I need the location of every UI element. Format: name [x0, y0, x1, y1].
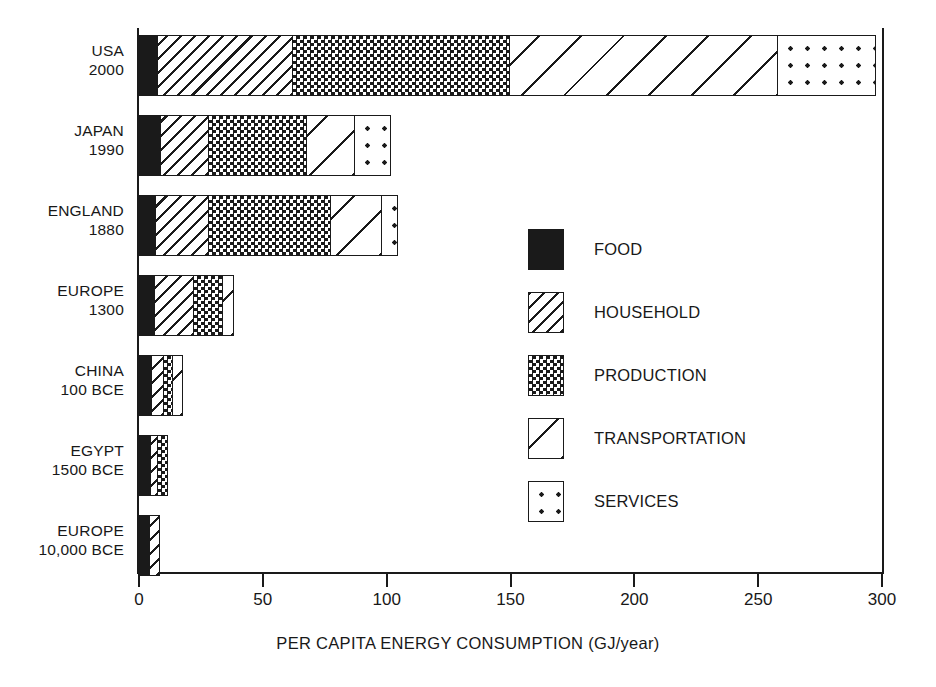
- energy-consumption-chart: USA 2000 JAPAN 1990 ENGLAND 1880 EUROPE …: [0, 0, 936, 687]
- y-axis-category-labels: USA 2000 JAPAN 1990 ENGLAND 1880 EUROPE …: [0, 0, 124, 687]
- x-axis-tick-label: 0: [134, 590, 143, 610]
- legend-item-label: FOOD: [594, 240, 642, 259]
- bar-segment-transportation: [222, 275, 234, 336]
- bar-segment-services: [354, 115, 391, 176]
- x-axis-tick: [510, 574, 512, 587]
- bar-segment-production: [292, 35, 510, 96]
- bar-row: [139, 275, 234, 336]
- x-axis-tick: [881, 574, 883, 587]
- bar-row: [139, 115, 391, 176]
- bar-segment-services: [381, 195, 398, 256]
- bar-segment-household: [154, 275, 195, 336]
- bar-segment-household: [155, 195, 209, 256]
- sparse-hatch-icon: [528, 418, 564, 459]
- legend-item: SERVICES: [528, 481, 746, 522]
- category-label-usa: USA 2000: [12, 41, 124, 79]
- bar-segment-household: [157, 35, 293, 96]
- bar-segment-food: [139, 275, 155, 336]
- chart-legend: FOODHOUSEHOLDPRODUCTIONTRANSPORTATIONSER…: [528, 229, 746, 544]
- bar-segment-production: [208, 195, 332, 256]
- bar-row: [139, 435, 168, 496]
- legend-item: FOOD: [528, 229, 746, 270]
- plot-area: 050100150200250300: [139, 28, 882, 572]
- legend-item-label: SERVICES: [594, 492, 679, 511]
- x-axis-tick-label: 300: [868, 590, 896, 610]
- category-place: ENGLAND: [12, 201, 124, 220]
- legend-item-label: TRANSPORTATION: [594, 429, 746, 448]
- bar-segment-transportation: [172, 355, 183, 416]
- x-axis-tick-label: 250: [744, 590, 772, 610]
- bar-segment-food: [139, 35, 159, 96]
- bar-row: [139, 195, 398, 256]
- x-axis-tick: [633, 574, 635, 587]
- x-axis-title: PER CAPITA ENERGY CONSUMPTION (GJ/year): [0, 634, 936, 653]
- category-place: JAPAN: [12, 121, 124, 140]
- x-axis-tick: [386, 574, 388, 587]
- bar-row: [139, 355, 183, 416]
- x-axis-tick-label: 200: [620, 590, 648, 610]
- category-period: 1300: [12, 300, 124, 319]
- category-period: 2000: [12, 60, 124, 79]
- category-period: 1880: [12, 220, 124, 239]
- category-label-europe-10000bce: EUROPE 10,000 BCE: [12, 521, 124, 559]
- category-label-europe-1300: EUROPE 1300: [12, 281, 124, 319]
- x-axis-tick: [262, 574, 264, 587]
- x-axis-tick: [138, 574, 140, 587]
- category-label-england: ENGLAND 1880: [12, 201, 124, 239]
- bar-segment-transportation: [330, 195, 382, 256]
- legend-item: TRANSPORTATION: [528, 418, 746, 459]
- bar-row: [139, 515, 160, 576]
- category-label-china: CHINA 100 BCE: [12, 361, 124, 399]
- x-axis-tick-label: 100: [372, 590, 400, 610]
- category-place: USA: [12, 41, 124, 60]
- legend-item-label: PRODUCTION: [594, 366, 707, 385]
- plot-right-border: [882, 28, 884, 574]
- bar-segment-production: [193, 275, 223, 336]
- bar-segment-food: [139, 115, 161, 176]
- bar-segment-services: [777, 35, 876, 96]
- x-axis-tick: [757, 574, 759, 587]
- legend-item: PRODUCTION: [528, 355, 746, 396]
- x-axis-tick-label: 50: [253, 590, 272, 610]
- category-period: 10,000 BCE: [12, 540, 124, 559]
- bar-row: [139, 35, 876, 96]
- bar-segment-production: [208, 115, 307, 176]
- bar-segment-transportation: [509, 35, 779, 96]
- category-place: EUROPE: [12, 281, 124, 300]
- legend-item: HOUSEHOLD: [528, 292, 746, 333]
- bar-segment-household: [149, 515, 160, 576]
- bar-segment-production: [157, 435, 168, 496]
- bar-segment-food: [139, 195, 156, 256]
- solid-black-icon: [528, 229, 564, 270]
- bar-segment-household: [160, 115, 210, 176]
- category-place: EGYPT: [12, 441, 124, 460]
- dots-icon: [528, 481, 564, 522]
- category-label-egypt: EGYPT 1500 BCE: [12, 441, 124, 479]
- category-period: 1990: [12, 140, 124, 159]
- legend-item-label: HOUSEHOLD: [594, 303, 700, 322]
- category-place: CHINA: [12, 361, 124, 380]
- category-period: 100 BCE: [12, 380, 124, 399]
- category-period: 1500 BCE: [12, 460, 124, 479]
- category-label-japan: JAPAN 1990: [12, 121, 124, 159]
- x-axis-tick-label: 150: [496, 590, 524, 610]
- bar-segment-transportation: [306, 115, 356, 176]
- dense-hatch-icon: [528, 292, 564, 333]
- category-place: EUROPE: [12, 521, 124, 540]
- checkerboard-icon: [528, 355, 564, 396]
